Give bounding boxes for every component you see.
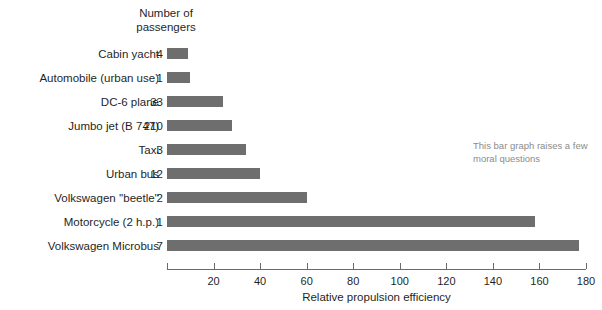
bar-chart: Number of passengers Cabin yacht4Automob… bbox=[0, 0, 602, 310]
x-axis-tick bbox=[400, 263, 401, 269]
bar bbox=[167, 96, 223, 107]
bar-track bbox=[167, 72, 587, 83]
x-axis-tick-label: 80 bbox=[347, 275, 359, 288]
x-axis-tick-label: 100 bbox=[391, 275, 409, 288]
bar-track bbox=[167, 240, 587, 251]
x-axis-tick-label: 20 bbox=[207, 275, 219, 288]
bar-track bbox=[167, 48, 587, 59]
bar-track bbox=[167, 168, 587, 179]
bar-track bbox=[167, 120, 587, 131]
bar-row-passenger-count: 33 bbox=[140, 95, 163, 109]
x-axis-tick-label: 160 bbox=[530, 275, 548, 288]
x-axis-tick-label: 180 bbox=[577, 275, 595, 288]
x-axis-tick bbox=[353, 263, 354, 269]
bar bbox=[167, 240, 579, 251]
bar-row: Volkswagen ''beetle''2 bbox=[0, 188, 602, 212]
bar-track bbox=[167, 96, 587, 107]
bar bbox=[167, 144, 246, 155]
bar-row-passenger-count: 2 bbox=[140, 191, 163, 205]
x-axis-tick bbox=[214, 263, 215, 269]
bar-row: DC-6 plane33 bbox=[0, 92, 602, 116]
x-axis-tick-label: 120 bbox=[437, 275, 455, 288]
x-axis bbox=[167, 269, 586, 270]
bar-row-passenger-count: 3 bbox=[140, 143, 163, 157]
x-axis-tick-label: 60 bbox=[301, 275, 313, 288]
x-axis-tick bbox=[493, 263, 494, 269]
x-axis-tick bbox=[586, 263, 587, 269]
x-axis-tick bbox=[167, 263, 168, 269]
x-axis-tick bbox=[539, 263, 540, 269]
bar-track bbox=[167, 216, 587, 227]
bar-track bbox=[167, 192, 587, 203]
bar bbox=[167, 216, 535, 227]
x-axis-tick-label: 40 bbox=[254, 275, 266, 288]
chart-annotation: This bar graph raises a few moral questi… bbox=[473, 140, 595, 165]
bar-row: Jumbo jet (B 747)210 bbox=[0, 116, 602, 140]
bar-row: Motorcycle (2 h.p.)1 bbox=[0, 212, 602, 236]
bar bbox=[167, 120, 232, 131]
bar-row: Cabin yacht4 bbox=[0, 44, 602, 68]
x-axis-tick bbox=[446, 263, 447, 269]
bar-row-passenger-count: 1 bbox=[140, 71, 163, 85]
bar-row-passenger-count: 210 bbox=[140, 119, 163, 133]
bar-row: Automobile (urban use)1 bbox=[0, 68, 602, 92]
x-axis-tick bbox=[260, 263, 261, 269]
bar-row-passenger-count: 4 bbox=[140, 47, 163, 61]
bar bbox=[167, 168, 260, 179]
x-axis-title: Relative propulsion efficiency bbox=[167, 290, 586, 304]
bar-row-passenger-count: 12 bbox=[140, 167, 163, 181]
bar bbox=[167, 48, 188, 59]
bar-row-passenger-count: 1 bbox=[140, 215, 163, 229]
bar-row: Volkswagen Microbus7 bbox=[0, 236, 602, 260]
bar-row-passenger-count: 7 bbox=[140, 239, 163, 253]
bar bbox=[167, 192, 307, 203]
x-axis-tick-label: 140 bbox=[484, 275, 502, 288]
bar-row: Urban bus12 bbox=[0, 164, 602, 188]
passenger-column-header: Number of passengers bbox=[96, 6, 236, 34]
x-axis-tick bbox=[307, 263, 308, 269]
bar bbox=[167, 72, 190, 83]
